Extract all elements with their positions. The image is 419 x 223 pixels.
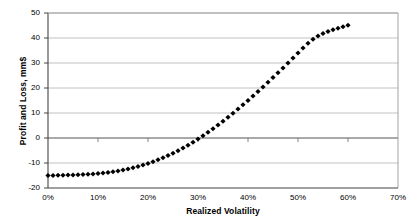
data-point-marker: [55, 173, 60, 178]
data-point-marker: [250, 93, 255, 98]
data-point-marker: [120, 167, 125, 172]
data-point-marker: [100, 170, 105, 175]
x-axis-title: Realized Volatility: [48, 206, 398, 216]
data-point-marker: [245, 98, 250, 103]
data-point-marker: [205, 130, 210, 135]
data-point-marker: [325, 29, 330, 34]
y-tick-label: 20: [14, 83, 40, 92]
data-point-marker: [215, 122, 220, 127]
data-point-marker: [175, 148, 180, 153]
y-tick-label: -20: [14, 183, 40, 192]
x-tick-label: 70%: [378, 193, 418, 202]
data-point-marker: [210, 126, 215, 131]
data-point-marker: [65, 172, 70, 177]
data-point-marker: [45, 173, 50, 178]
data-point-marker: [265, 80, 270, 85]
chart-container: Profit and Loss, mm$ Realized Volatility…: [0, 0, 419, 223]
data-point-marker: [150, 159, 155, 164]
data-point-marker: [220, 119, 225, 124]
data-point-marker: [260, 84, 265, 89]
gridlines: [48, 13, 398, 163]
data-point-marker: [295, 50, 300, 55]
axis-lines: [44, 13, 398, 188]
data-point-marker: [160, 155, 165, 160]
data-point-marker: [330, 27, 335, 32]
data-point-marker: [280, 65, 285, 70]
data-point-marker: [180, 145, 185, 150]
data-point-marker: [285, 60, 290, 65]
data-point-marker: [290, 55, 295, 60]
data-point-marker: [105, 170, 110, 175]
data-point-marker: [275, 70, 280, 75]
data-point-marker: [80, 172, 85, 177]
x-tick-label: 60%: [328, 193, 368, 202]
data-point-marker: [60, 173, 65, 178]
data-point-marker: [255, 89, 260, 94]
data-point-marker: [335, 26, 340, 31]
y-tick-label: -10: [14, 158, 40, 167]
data-point-marker: [165, 153, 170, 158]
data-point-marker: [340, 24, 345, 29]
data-point-marker: [115, 168, 120, 173]
data-point-marker: [230, 111, 235, 116]
y-tick-label: 10: [14, 108, 40, 117]
data-point-marker: [345, 23, 350, 28]
x-axis-ticks: [98, 138, 348, 142]
data-point-marker: [90, 171, 95, 176]
data-point-marker: [190, 140, 195, 145]
data-point-marker: [300, 45, 305, 50]
data-series-markers: [45, 23, 350, 178]
y-tick-label: 40: [14, 33, 40, 42]
data-point-marker: [170, 151, 175, 156]
y-axis-title: Profit and Loss, mm$: [18, 36, 28, 166]
data-point-marker: [155, 157, 160, 162]
data-point-marker: [130, 165, 135, 170]
data-point-marker: [270, 75, 275, 80]
y-tick-label: 30: [14, 58, 40, 67]
data-point-marker: [225, 115, 230, 120]
data-point-marker: [310, 37, 315, 42]
data-point-marker: [75, 172, 80, 177]
data-point-marker: [320, 31, 325, 36]
data-point-marker: [235, 106, 240, 111]
data-point-marker: [185, 143, 190, 148]
y-tick-label: 0: [14, 133, 40, 142]
x-tick-label: 0%: [28, 193, 68, 202]
y-tick-label: 50: [14, 8, 40, 17]
x-tick-label: 50%: [278, 193, 318, 202]
data-point-marker: [95, 171, 100, 176]
data-point-marker: [110, 169, 115, 174]
data-point-marker: [305, 41, 310, 46]
x-tick-label: 20%: [128, 193, 168, 202]
data-point-marker: [135, 164, 140, 169]
data-point-marker: [125, 166, 130, 171]
plot-area: [0, 0, 419, 223]
x-tick-label: 10%: [78, 193, 118, 202]
data-point-marker: [145, 161, 150, 166]
data-point-marker: [240, 102, 245, 107]
data-point-marker: [70, 172, 75, 177]
x-tick-label: 40%: [228, 193, 268, 202]
data-point-marker: [50, 173, 55, 178]
x-tick-label: 30%: [178, 193, 218, 202]
data-point-marker: [85, 172, 90, 177]
data-point-marker: [195, 136, 200, 141]
